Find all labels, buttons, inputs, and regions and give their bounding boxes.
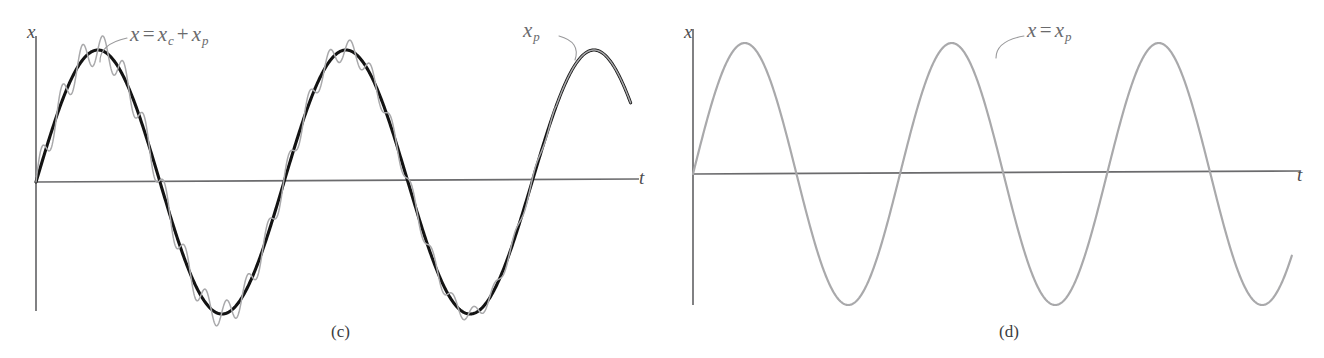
panel-d-caption: (d) bbox=[999, 322, 1019, 342]
figure-container: x t x=xc+xp xp (c) x t x=xp (d) bbox=[0, 0, 1324, 358]
panel-d-y-axis-label: x bbox=[684, 22, 693, 41]
panel-c-plot bbox=[0, 0, 662, 358]
panel-d-x-axis-label: t bbox=[1297, 165, 1303, 184]
panel-d-plot bbox=[662, 0, 1324, 358]
panel-c-y-axis-label: x bbox=[27, 22, 36, 41]
panel-c: x t x=xc+xp xp (c) bbox=[0, 0, 662, 358]
panel-d: x t x=xp (d) bbox=[662, 0, 1324, 358]
panel-d-particular-solution-label: x=xp bbox=[1027, 20, 1072, 43]
panel-c-total-solution-label: x=xc+xp bbox=[130, 24, 208, 47]
panel-c-particular-solution-label: xp bbox=[523, 20, 540, 43]
panel-c-caption: (c) bbox=[331, 322, 350, 342]
panel-c-x-axis-label: t bbox=[639, 168, 645, 187]
